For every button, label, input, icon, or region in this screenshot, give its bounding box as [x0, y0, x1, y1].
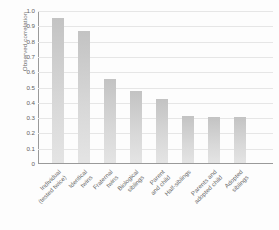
- x-tick-slot: Adoptedsiblings: [226, 166, 252, 228]
- plot-area: 1.00.90.80.70.60.50.40.30.20.10: [38, 11, 273, 164]
- y-tick-label: 1.0: [26, 8, 35, 14]
- x-tick-label: Individual(tested twice): [31, 168, 68, 205]
- bar-slot: [227, 10, 253, 163]
- x-tick-slot: Parents andadopted child: [200, 166, 226, 228]
- bar: [208, 117, 220, 163]
- bar: [104, 79, 116, 163]
- y-tick-label: 0.3: [26, 115, 35, 121]
- x-axis-line: [38, 163, 273, 164]
- bar: [234, 117, 246, 163]
- x-tick-slot: Identicaltwins: [70, 166, 96, 228]
- bar-slot: [149, 10, 175, 163]
- x-tick-label: Fraternaltwins: [91, 168, 119, 196]
- y-tick-label: 0.6: [26, 69, 35, 75]
- bar-slot: [123, 10, 149, 163]
- y-tick-label: 0.2: [26, 130, 35, 136]
- bar: [52, 18, 64, 163]
- x-tick-slot: Parentand child: [148, 166, 174, 228]
- y-tick-label: 0.5: [26, 84, 35, 90]
- bar: [156, 99, 168, 163]
- y-tick-label: 0.8: [26, 38, 35, 44]
- bar-slot: [201, 10, 227, 163]
- bar: [130, 91, 142, 163]
- bar-slot: [97, 10, 123, 163]
- bar-slot: [175, 10, 201, 163]
- y-tick-label: 0: [32, 161, 35, 167]
- bar: [182, 116, 194, 163]
- x-tick-label: Identicaltwins: [67, 168, 94, 195]
- bar-series: [39, 11, 273, 163]
- bar-chart-figure: Observed correlation 1.00.90.80.70.60.50…: [0, 0, 279, 230]
- bar-slot: [71, 10, 97, 163]
- bar: [78, 31, 90, 163]
- x-tick-label: Adoptedsiblings: [223, 168, 250, 195]
- x-tick-slot: Fraternaltwins: [96, 166, 122, 228]
- x-tick-slot: Biologicalsiblings: [122, 166, 148, 228]
- y-tick-label: 0.1: [26, 146, 35, 152]
- x-axis-tick-labels: Individual(tested twice)IdenticaltwinsFr…: [38, 166, 273, 230]
- y-tick-label: 0.9: [26, 23, 35, 29]
- bar-slot: [45, 10, 71, 163]
- y-tick-label: 0.4: [26, 100, 35, 106]
- x-tick-slot: Individual(tested twice): [44, 166, 70, 228]
- y-tick-label: 0.7: [26, 54, 35, 60]
